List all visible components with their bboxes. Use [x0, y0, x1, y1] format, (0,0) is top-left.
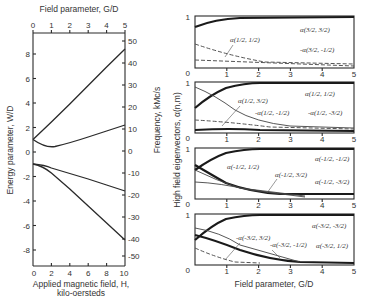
svg-text:-α(1/2, -1/2): -α(1/2, -1/2)	[255, 109, 290, 117]
panel-1-x-ticks: 1 2 3 4 5	[225, 68, 357, 79]
svg-text:0: 0	[32, 269, 37, 278]
svg-text:α(-1/2, -3/2): α(-1/2, -3/2)	[315, 178, 350, 186]
left-ticks: 8 6 4 2 0 -2 -4 -6 -8	[23, 50, 36, 255]
svg-text:2: 2	[256, 267, 261, 276]
svg-text:2: 2	[26, 124, 31, 133]
svg-text:α(3/2, 3/2): α(3/2, 3/2)	[300, 26, 330, 34]
svg-text:6: 6	[26, 75, 31, 84]
svg-text:-8: -8	[23, 246, 31, 255]
panel-3-x-ticks: 1 2 3 4 5	[225, 199, 357, 210]
svg-text:1: 1	[186, 145, 191, 154]
svg-text:-20: -20	[128, 191, 140, 200]
svg-text:-40: -40	[128, 235, 140, 244]
energy-curve-3	[33, 164, 125, 191]
svg-text:8: 8	[26, 50, 31, 59]
svg-text:1: 1	[186, 79, 191, 88]
svg-text:5: 5	[123, 21, 128, 30]
svg-text:-α(-3/2, 3/2): -α(-3/2, 3/2)	[236, 234, 271, 242]
svg-text:α(-1/2, 3/2): α(-1/2, 3/2)	[275, 171, 308, 179]
svg-text:2: 2	[256, 70, 261, 79]
svg-text:0: 0	[186, 200, 191, 209]
svg-text:1: 1	[186, 211, 191, 220]
bottom-axis-label-units: kilo-oersteds	[57, 288, 105, 298]
energy-level-chart: Field parameter, G/D 0 1 2 3 4 5 0 2 4 6…	[5, 4, 162, 298]
svg-text:3: 3	[288, 70, 293, 79]
eigenvector-panels: High field eigenvectors, α(n,m) 1 0 α(3/…	[172, 13, 357, 289]
svg-text:6: 6	[86, 269, 91, 278]
svg-text:10: 10	[120, 269, 129, 278]
svg-text:1: 1	[49, 21, 54, 30]
svg-text:-30: -30	[128, 213, 140, 222]
svg-text:α(-1/2, 1/2): α(-1/2, 1/2)	[227, 163, 260, 171]
top-axis-label: Field parameter, G/D	[40, 4, 119, 14]
svg-text:-α(-3/2, -1/2): -α(-3/2, -1/2)	[270, 241, 307, 249]
panel-4: 1 0 α(-3/2, -3/2) -α(-3/2, 3/2) -α(-3/2,…	[186, 211, 357, 276]
svg-text:-10: -10	[128, 169, 140, 178]
eigenvector-axis-label: High field eigenvectors, α(n,m)	[172, 92, 182, 208]
svg-text:1: 1	[225, 201, 230, 210]
svg-text:4: 4	[68, 269, 73, 278]
svg-text:α(1/2, 1/2): α(1/2, 1/2)	[230, 36, 260, 44]
svg-text:-50: -50	[128, 252, 140, 261]
svg-text:1: 1	[225, 267, 230, 276]
svg-text:10: 10	[128, 125, 137, 134]
svg-text:40: 40	[128, 59, 137, 68]
svg-text:5: 5	[352, 135, 357, 144]
eigenvector-x-axis-label: Field parameter, G/D	[235, 279, 314, 289]
svg-text:α(1/2, 3/2): α(1/2, 3/2)	[238, 97, 268, 105]
svg-text:4: 4	[320, 70, 325, 79]
svg-text:0: 0	[186, 134, 191, 143]
svg-text:20: 20	[128, 103, 137, 112]
svg-text:α(-1/2, -1/2): α(-1/2, -1/2)	[315, 155, 350, 163]
panel-3: 1 0 α(-1/2, 1/2) α(-1/2, 3/2) α(-1/2, -1…	[186, 145, 357, 210]
energy-curve-2	[33, 125, 125, 147]
svg-text:0: 0	[26, 148, 31, 157]
svg-text:-4: -4	[23, 197, 31, 206]
svg-text:-6: -6	[23, 222, 31, 231]
svg-text:0: 0	[186, 266, 191, 275]
svg-text:2: 2	[49, 269, 54, 278]
figure: Field parameter, G/D 0 1 2 3 4 5 0 2 4 6…	[0, 0, 367, 298]
svg-text:2: 2	[68, 21, 73, 30]
svg-text:4: 4	[26, 99, 31, 108]
svg-text:3: 3	[288, 267, 293, 276]
svg-text:α(-3/2, -3/2): α(-3/2, -3/2)	[312, 222, 347, 230]
svg-text:1: 1	[225, 135, 230, 144]
svg-text:4: 4	[320, 201, 325, 210]
energy-curve-1	[33, 49, 125, 140]
svg-text:2: 2	[256, 201, 261, 210]
svg-text:-α(1/2, -3/2): -α(1/2, -3/2)	[308, 109, 343, 117]
panel-1: 1 0 α(3/2, 3/2) α(1/2, 1/2) -α(3/2, -1/2…	[186, 13, 357, 79]
svg-text:2: 2	[256, 135, 261, 144]
svg-text:α(1/2, 1/2): α(1/2, 1/2)	[305, 90, 335, 98]
svg-text:1: 1	[186, 13, 191, 22]
svg-text:8: 8	[104, 269, 109, 278]
svg-text:-α(3/2, -1/2): -α(3/2, -1/2)	[300, 46, 335, 54]
svg-text:4: 4	[320, 267, 325, 276]
svg-text:α(-3/2, 1/2): α(-3/2, 1/2)	[316, 242, 349, 250]
svg-text:50: 50	[128, 37, 137, 46]
top-ticks: 0 1 2 3 4 5	[31, 21, 128, 33]
svg-text:0: 0	[128, 147, 133, 156]
svg-text:0: 0	[31, 21, 36, 30]
panel-2: 1 0 α(1/2, 1/2) α(1/2, 3/2) -α(1/2, -1/2…	[186, 79, 357, 144]
svg-text:4: 4	[320, 135, 325, 144]
svg-text:5: 5	[352, 201, 357, 210]
right-axis-label: Frequency, kMc/s	[152, 87, 162, 153]
bottom-ticks: 0 2 4 6 8 10	[32, 263, 129, 278]
svg-text:30: 30	[128, 81, 137, 90]
svg-text:3: 3	[288, 135, 293, 144]
svg-text:5: 5	[352, 70, 357, 79]
panel-2-x-ticks: 1 2 3 4 5	[225, 133, 357, 144]
left-axis-label: Energy parameter, W/D	[5, 106, 15, 195]
svg-text:1: 1	[225, 70, 230, 79]
svg-text:-2: -2	[23, 173, 31, 182]
energy-curve-4	[33, 164, 125, 240]
svg-text:3: 3	[86, 21, 91, 30]
svg-text:4: 4	[104, 21, 109, 30]
svg-text:5: 5	[352, 267, 357, 276]
svg-text:3: 3	[288, 201, 293, 210]
panel-4-x-ticks: 1 2 3 4 5	[225, 265, 357, 276]
svg-text:0: 0	[186, 69, 191, 78]
